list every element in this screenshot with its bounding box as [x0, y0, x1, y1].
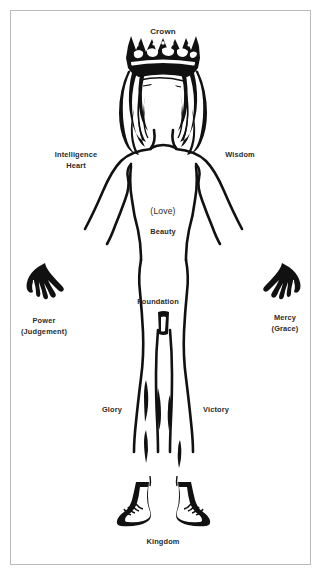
label-victory-text: Victory [203, 405, 229, 414]
label-power-text: Power [33, 316, 56, 325]
label-mercy-grace: Mercy (Grace) [272, 313, 299, 334]
label-kingdom-text: Kingdom [146, 537, 179, 546]
label-judgement-text: (Judgement) [21, 327, 67, 338]
label-heart-text: Heart [55, 161, 97, 172]
label-intelligence-text: Intelligence [55, 150, 97, 159]
label-mercy-text: Mercy [274, 313, 296, 322]
label-power-judgement: Power (Judgement) [21, 316, 67, 337]
label-glory-text: Glory [102, 405, 122, 414]
label-kingdom: Kingdom [146, 537, 179, 548]
label-foundation: Foundation [137, 297, 179, 308]
label-beauty: Beauty [150, 227, 176, 238]
label-love-text: (Love) [150, 206, 175, 216]
diagram-page: Crown Intelligence Heart Wisdom (Love) B… [0, 0, 323, 577]
label-crown-text: Crown [150, 27, 176, 36]
label-love: (Love) [150, 205, 175, 217]
label-beauty-text: Beauty [150, 227, 176, 236]
label-wisdom-text: Wisdom [225, 150, 255, 159]
label-victory: Victory [203, 405, 229, 416]
label-crown: Crown [150, 27, 176, 38]
label-wisdom: Wisdom [225, 150, 255, 161]
label-foundation-text: Foundation [137, 297, 179, 306]
label-intelligence-heart: Intelligence Heart [55, 150, 97, 171]
label-glory: Glory [102, 405, 122, 416]
label-layer: Crown Intelligence Heart Wisdom (Love) B… [0, 0, 323, 577]
label-grace-text: (Grace) [272, 324, 299, 335]
